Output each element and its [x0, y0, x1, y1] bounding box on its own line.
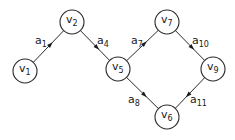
node-v6: v6 [155, 105, 179, 129]
edge-a1: a1 [33, 31, 63, 63]
edge-label: a4 [97, 34, 109, 49]
edge-label: a7 [131, 34, 143, 49]
edge-a7: a7 [127, 30, 159, 60]
node-v9: v9 [201, 57, 225, 81]
node-v2: v2 [60, 10, 84, 34]
edge-label: a11 [190, 93, 207, 108]
graph-diagram: a1a4a7a10a8a11v1v2v5v7v9v6 [0, 0, 235, 140]
edge-label: a1 [35, 34, 47, 49]
edge-label: a10 [192, 34, 209, 49]
edge-a4: a4 [80, 31, 109, 61]
edge-a8: a8 [127, 77, 159, 108]
node-v5: v5 [106, 57, 130, 81]
graph-svg: a1a4a7a10a8a11v1v2v5v7v9v6 [0, 0, 235, 140]
edge-a10: a10 [175, 31, 209, 61]
node-v7: v7 [155, 10, 179, 34]
edge-label: a8 [128, 93, 140, 108]
node-v1: v1 [13, 59, 37, 83]
edge-a11: a11 [175, 78, 207, 109]
